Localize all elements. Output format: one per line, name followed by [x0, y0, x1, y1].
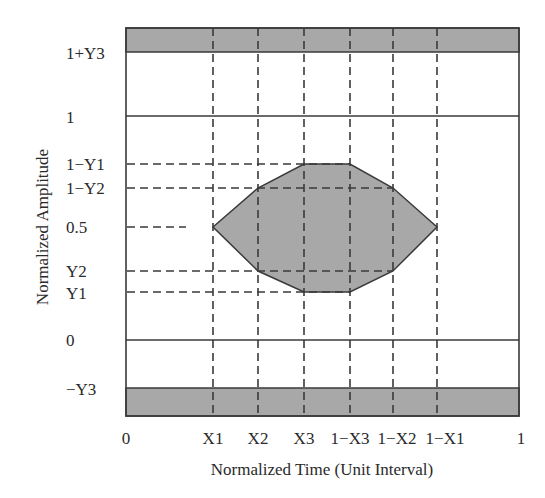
x-tick-x3: X3: [294, 429, 315, 448]
y-tick-1-minus-y2: 1−Y2: [66, 179, 105, 198]
x-axis-title: Normalized Time (Unit Interval): [211, 460, 433, 479]
x-tick-labels: 0 X1 X2 X3 1−X3 1−X2 1−X1 1: [122, 429, 526, 448]
y-tick-1: 1: [66, 108, 75, 127]
lower-mask-band: [126, 388, 519, 416]
y-tick-1-minus-y1: 1−Y1: [66, 155, 105, 174]
y-tick-0: 0: [66, 331, 75, 350]
x-tick-x2: X2: [248, 429, 269, 448]
y-tick-y2: Y2: [66, 262, 87, 281]
y-tick-labels: 1+Y3 1 1−Y1 1−Y2 0.5 Y2 Y1 0 −Y3: [66, 44, 105, 399]
y-tick-y1: Y1: [66, 284, 87, 303]
x-tick-1-minus-x2: 1−X2: [378, 429, 417, 448]
y-tick-0-5: 0.5: [66, 218, 87, 237]
y-tick-1-plus-y3: 1+Y3: [66, 44, 105, 63]
eye-center-mask: [213, 164, 437, 292]
x-tick-0: 0: [122, 429, 131, 448]
upper-mask-band: [126, 28, 519, 52]
x-tick-x1: X1: [203, 429, 224, 448]
x-tick-1-minus-x1: 1−X1: [426, 429, 465, 448]
y-axis-title: Normalized Amplitude: [33, 149, 52, 305]
y-tick-minus-y3: −Y3: [66, 380, 96, 399]
eye-mask-diagram: 1+Y3 1 1−Y1 1−Y2 0.5 Y2 Y1 0 −Y3 0 X1 X2…: [0, 0, 545, 498]
x-tick-1-minus-x3: 1−X3: [331, 429, 370, 448]
x-tick-1: 1: [517, 429, 526, 448]
